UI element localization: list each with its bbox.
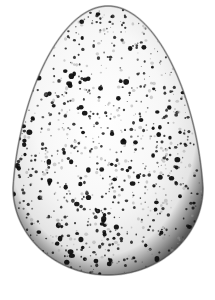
speck	[139, 113, 141, 116]
speck	[160, 204, 163, 207]
speck	[52, 104, 56, 108]
speck	[170, 72, 172, 73]
speck	[98, 136, 99, 137]
speck	[140, 197, 142, 199]
speck	[125, 144, 126, 145]
speck	[23, 135, 26, 139]
speck	[74, 202, 79, 207]
speck	[34, 113, 35, 115]
speck	[75, 32, 77, 34]
speck	[81, 36, 84, 40]
speck	[120, 38, 123, 41]
speck	[93, 40, 95, 42]
speck	[119, 67, 121, 69]
speck	[73, 244, 74, 246]
speck	[167, 122, 169, 124]
speck	[89, 209, 90, 211]
speck	[63, 123, 64, 124]
speck	[185, 208, 187, 210]
speck	[171, 170, 172, 171]
speck	[148, 206, 149, 208]
speck	[112, 23, 114, 25]
speck	[85, 136, 86, 137]
speck	[183, 132, 185, 134]
speck	[64, 255, 66, 257]
speck	[97, 56, 100, 60]
speck	[17, 160, 20, 163]
speck	[96, 162, 99, 164]
speck	[95, 21, 98, 23]
speck	[143, 33, 145, 35]
speck	[110, 15, 112, 18]
speck	[22, 200, 25, 202]
speck	[63, 95, 64, 96]
speck	[189, 142, 191, 144]
speck	[110, 163, 114, 166]
speck	[78, 237, 83, 242]
speck	[67, 138, 68, 139]
speck	[89, 117, 91, 119]
speck	[124, 16, 125, 17]
speck	[185, 167, 186, 168]
speck	[92, 194, 94, 196]
speck	[19, 201, 21, 204]
speck	[88, 218, 89, 219]
speckled-egg-illustration	[0, 0, 215, 300]
speck	[161, 74, 163, 76]
speck	[37, 220, 39, 222]
speck	[101, 195, 104, 198]
speck	[112, 186, 114, 188]
speck	[132, 257, 135, 260]
speck	[44, 94, 46, 96]
speck	[100, 85, 102, 87]
speck	[44, 147, 47, 150]
speck	[53, 75, 55, 77]
speck	[64, 144, 67, 148]
speck	[137, 87, 138, 88]
speck	[161, 141, 164, 144]
speck	[138, 126, 142, 130]
speck	[147, 107, 149, 109]
speck	[61, 235, 64, 238]
speck	[47, 166, 50, 169]
speck	[100, 168, 101, 169]
speck	[161, 159, 163, 161]
speck	[118, 107, 120, 109]
speck	[64, 260, 69, 265]
speck	[78, 43, 80, 45]
speck	[156, 141, 158, 143]
speck	[99, 22, 101, 24]
speck	[63, 215, 66, 218]
speck	[79, 20, 84, 24]
speck	[160, 211, 162, 213]
speck	[94, 223, 97, 226]
speck	[169, 154, 171, 156]
speck	[102, 17, 104, 18]
speck	[83, 98, 85, 101]
speck	[125, 31, 126, 32]
speck	[104, 208, 107, 210]
speck	[150, 61, 154, 64]
speck	[134, 151, 136, 152]
speck	[142, 25, 144, 28]
speck	[124, 129, 126, 131]
speck	[57, 182, 59, 184]
speck	[171, 200, 172, 201]
speck	[58, 128, 61, 130]
speck	[126, 233, 128, 234]
speck	[47, 159, 51, 165]
speck	[147, 215, 149, 217]
speck	[79, 88, 81, 90]
speck	[140, 41, 143, 43]
speck	[92, 113, 94, 115]
speck	[107, 212, 111, 215]
speck	[196, 169, 199, 172]
speck	[52, 251, 55, 254]
speck	[78, 81, 81, 85]
speck	[30, 159, 32, 161]
egg-shell	[13, 6, 203, 275]
speck	[100, 72, 102, 74]
speck	[170, 207, 171, 209]
speck	[97, 210, 99, 212]
speck	[98, 96, 101, 99]
